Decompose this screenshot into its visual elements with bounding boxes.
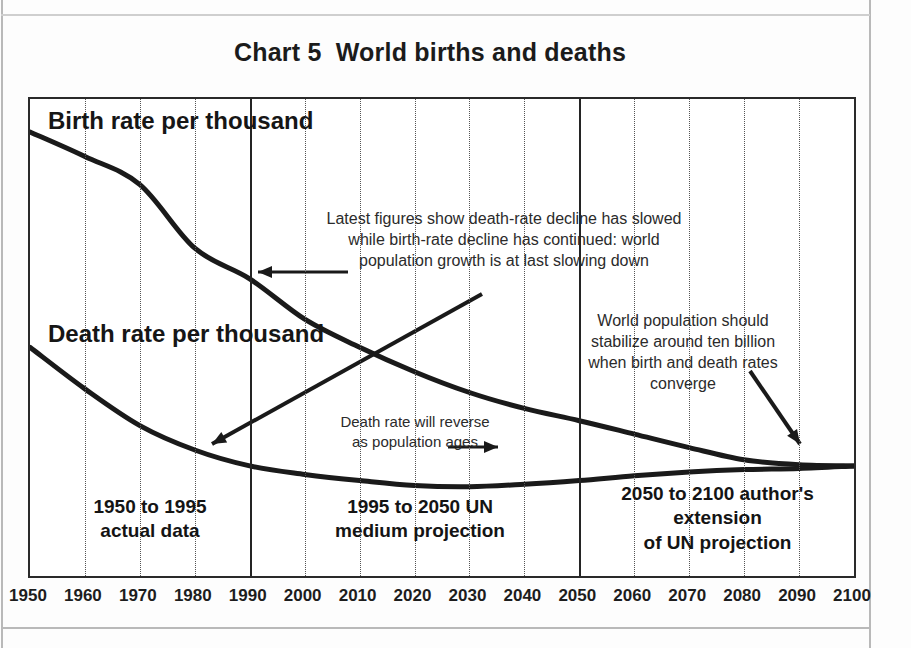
x-axis-label: 2090 (767, 586, 827, 606)
x-axis-label: 1960 (53, 586, 113, 606)
zone-divider-stub (579, 99, 581, 183)
x-axis-label: 2070 (657, 586, 717, 606)
x-axis-label: 2020 (383, 586, 443, 606)
zone-label-actual-data: 1950 to 1995 actual data (50, 495, 250, 544)
x-axis-label: 1950 (0, 586, 58, 606)
x-axis-label: 1970 (108, 586, 168, 606)
x-axis-label: 1980 (163, 586, 223, 606)
page-border-bottom (1, 627, 870, 629)
annotation-right: World population should stabilize around… (548, 310, 818, 394)
x-axis-label: 2040 (492, 586, 552, 606)
chart-title: Chart 5 World births and deaths (0, 38, 860, 67)
page-border-top (1, 14, 870, 16)
annotation-top: Latest figures show death-rate decline h… (304, 208, 704, 271)
x-axis-label: 2030 (437, 586, 497, 606)
birth-rate-series-label: Birth rate per thousand (48, 107, 313, 135)
x-axis-label: 1990 (218, 586, 278, 606)
zone-label-author-extension: 2050 to 2100 author's extension of UN pr… (590, 482, 845, 555)
x-axis-label: 2080 (712, 586, 772, 606)
page-border-left (1, 0, 3, 648)
x-axis-label: 2060 (602, 586, 662, 606)
chart-page: Chart 5 World births and deaths 96307418… (0, 0, 911, 648)
annotation-death-reverse: Death rate will reverse as population ag… (300, 412, 530, 452)
x-axis-label: 2010 (328, 586, 388, 606)
zone-label-un-projection: 1995 to 2050 UN medium projection (300, 495, 540, 544)
death-rate-series-label: Death rate per thousand (48, 320, 324, 348)
x-axis-label: 2000 (273, 586, 333, 606)
x-axis-label: 2050 (547, 586, 607, 606)
page-border-right (869, 0, 871, 648)
x-axis-label: 2100 (822, 586, 882, 606)
